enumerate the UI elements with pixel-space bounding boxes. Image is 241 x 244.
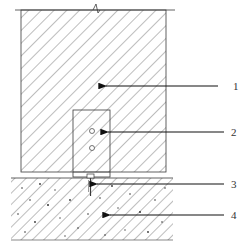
label-2: 2 [231, 126, 237, 138]
diagram-canvas: 1 2 3 4 [0, 0, 241, 244]
bolt-hole-upper [90, 129, 95, 134]
bolt-hole-lower [90, 146, 95, 151]
label-1: 1 [233, 80, 239, 92]
concrete-slab [11, 178, 173, 240]
label-3: 3 [231, 178, 237, 190]
label-4: 4 [231, 209, 237, 221]
